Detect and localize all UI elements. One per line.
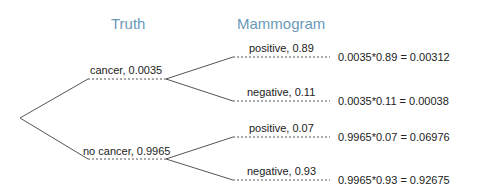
leaf-label-no-cancer-positive: positive, 0.07 xyxy=(249,122,314,134)
result-cancer-negative: 0.0035*0.11 = 0.00038 xyxy=(338,95,449,107)
leaf-label-cancer-positive: positive, 0.89 xyxy=(249,42,314,54)
edge-cancer-positive xyxy=(166,57,233,79)
result-no-cancer-negative: 0.9965*0.93 = 0.92675 xyxy=(338,174,450,186)
title-mammogram: Mammogram xyxy=(237,16,325,32)
result-cancer-positive: 0.0035*0.89 = 0.00312 xyxy=(338,51,450,63)
edge-cancer-negative xyxy=(166,79,233,101)
title-truth: Truth xyxy=(111,16,145,32)
edge-root-no-cancer xyxy=(20,118,88,159)
edge-no-cancer-negative xyxy=(166,159,233,180)
node-label-cancer: cancer, 0.0035 xyxy=(90,64,162,76)
node-label-no-cancer: no cancer, 0.9965 xyxy=(83,145,170,157)
leaf-label-no-cancer-negative: negative, 0.93 xyxy=(247,165,316,177)
edge-no-cancer-positive xyxy=(166,137,233,159)
leaf-label-cancer-negative: negative, 0.11 xyxy=(247,86,315,98)
result-no-cancer-positive: 0.9965*0.07 = 0.06976 xyxy=(338,131,450,143)
edge-root-cancer xyxy=(20,79,88,118)
